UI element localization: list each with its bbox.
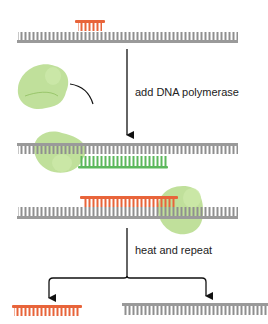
template-strand-1 <box>17 32 238 43</box>
new-strand-orange <box>80 196 178 199</box>
dna-polymerase-1 <box>18 64 68 109</box>
stage-3 <box>17 186 238 234</box>
primer-1 <box>75 20 105 31</box>
new-strand-green-teeth <box>80 156 168 166</box>
product-orange <box>12 305 82 316</box>
new-strand-green <box>78 166 168 169</box>
product-gray <box>122 303 268 315</box>
pcr-diagram <box>0 0 268 324</box>
stage-2 <box>17 131 238 172</box>
step-label-add-polymerase: add DNA polymerase <box>135 86 239 98</box>
step-label-heat-repeat: heat and repeat <box>135 244 212 256</box>
curve-arrow <box>70 84 93 104</box>
branch-arrow <box>49 228 206 298</box>
stage-1 <box>17 20 238 43</box>
